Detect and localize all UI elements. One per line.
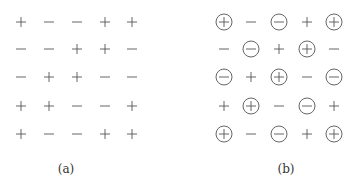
circled-plus-icon: [214, 12, 234, 32]
plus-icon: [269, 39, 289, 59]
minus-icon: [269, 96, 289, 116]
caption-b: (b): [266, 162, 306, 176]
circled-plus-icon: [324, 12, 344, 32]
circled-plus-icon: [269, 67, 289, 87]
minus-icon: [324, 39, 344, 59]
plus-icon: [214, 96, 234, 116]
plus-icon: [241, 67, 261, 87]
circled-plus-icon: [297, 39, 317, 59]
circled-minus-icon: [297, 96, 317, 116]
minus-icon: [297, 67, 317, 87]
minus-icon: [214, 39, 234, 59]
circled-plus-icon: [241, 96, 261, 116]
minus-icon: [241, 12, 261, 32]
circled-minus-icon: [269, 124, 289, 144]
circled-minus-icon: [269, 12, 289, 32]
plus-icon: [297, 124, 317, 144]
plus-icon: [297, 12, 317, 32]
circled-plus-icon: [214, 124, 234, 144]
panel-b: (b): [0, 0, 181, 184]
circled-minus-icon: [241, 39, 261, 59]
minus-icon: [241, 124, 261, 144]
circled-plus-icon: [324, 124, 344, 144]
circled-minus-icon: [324, 67, 344, 87]
circled-minus-icon: [214, 67, 234, 87]
plus-icon: [324, 96, 344, 116]
